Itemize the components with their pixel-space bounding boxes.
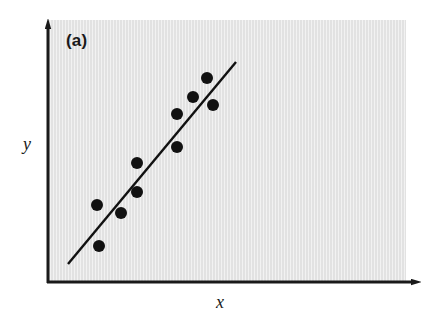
y-axis-label: y	[23, 134, 31, 155]
scatter-point	[201, 72, 213, 84]
scatter-point	[115, 207, 127, 219]
plot-graphics-layer	[0, 0, 432, 322]
scatter-point-group	[91, 72, 219, 252]
scatter-point	[171, 141, 183, 153]
panel-letter-label: (a)	[66, 31, 87, 51]
scatter-point	[91, 199, 103, 211]
scatter-point	[131, 186, 143, 198]
scatter-point	[187, 91, 199, 103]
scatter-point	[131, 157, 143, 169]
scatter-point	[93, 240, 105, 252]
x-axis-label: x	[216, 292, 224, 313]
regression-trend-line	[68, 62, 236, 264]
figure-scatter-plot: (a) y x	[0, 0, 432, 322]
scatter-point	[171, 108, 183, 120]
scatter-point	[207, 99, 219, 111]
